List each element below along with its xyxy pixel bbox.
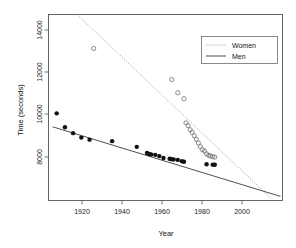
men-data-point [79, 135, 83, 139]
y-axis-tick-labels: 14000 12000 10000 8000 [36, 20, 43, 165]
men-data-point [110, 139, 114, 143]
women-data-point [182, 97, 186, 101]
y-tick-label-14000: 14000 [36, 20, 43, 40]
men-data-point [55, 111, 59, 115]
x-axis-title: Year [158, 229, 174, 238]
y-tick-label-8000: 8000 [36, 149, 43, 165]
y-tick-label-10000: 10000 [36, 104, 43, 124]
legend-label-women: Women [232, 42, 256, 49]
women-data-point [198, 145, 202, 149]
women-data-point [92, 46, 96, 50]
x-tick-label-1920: 1920 [74, 208, 90, 215]
men-data-point [135, 145, 139, 149]
men-data-point [63, 125, 67, 129]
men-data-point [204, 162, 208, 166]
men-data-point [161, 156, 165, 160]
men-data-point [153, 153, 157, 157]
chart-figure: 14000 12000 10000 8000 Time (seconds) 19… [0, 0, 296, 248]
x-tick-label-2000: 2000 [234, 208, 250, 215]
y-axis-title: Time (seconds) [16, 84, 25, 136]
men-data-point [157, 154, 161, 158]
men-data-point [213, 163, 217, 167]
legend-label-men: Men [232, 53, 246, 60]
men-data-point [182, 160, 186, 164]
x-tick-label-1980: 1980 [194, 208, 210, 215]
men-data-points [55, 111, 217, 167]
x-tick-label-1940: 1940 [114, 208, 130, 215]
scatter-plot-svg: 14000 12000 10000 8000 Time (seconds) 19… [0, 0, 296, 248]
legend: Women Men [202, 37, 278, 64]
women-data-point [170, 77, 174, 81]
women-data-point [176, 91, 180, 95]
men-data-point [71, 131, 75, 135]
y-tick-label-12000: 12000 [36, 62, 43, 82]
men-fit-line [53, 127, 281, 197]
x-axis-ticks [82, 201, 242, 205]
men-data-point [149, 152, 153, 156]
men-data-point [172, 157, 176, 161]
men-data-point [87, 137, 91, 141]
x-axis-tick-labels: 1920 1940 1960 1980 2000 [74, 208, 250, 215]
men-data-point [176, 158, 180, 162]
x-tick-label-1960: 1960 [154, 208, 170, 215]
y-axis-ticks [45, 30, 49, 157]
